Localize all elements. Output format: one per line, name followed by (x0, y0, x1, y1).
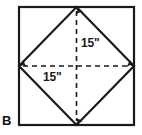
vertical-dimension-label: 15" (80, 37, 100, 49)
geometry-figure-panel: 15" 15" B (0, 0, 142, 135)
horizontal-dimension-label: 15" (42, 71, 62, 83)
figure-drawing (0, 0, 142, 135)
panel-letter-label: B (2, 114, 11, 127)
